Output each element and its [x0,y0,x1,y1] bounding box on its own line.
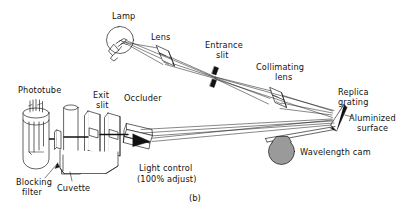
label-lens: Lens [151,33,171,43]
label-aluminized-surface-line2: surface [357,124,388,134]
label-exit-slit-line2: slit [96,101,109,111]
label-entrance-slit-line2: slit [216,51,229,61]
label-light-control-line1: Light control [139,164,192,174]
label-light-control-line2: (100% adjust) [137,175,197,185]
ray-bundle-slit-to-grating [215,77,334,118]
label-wavelength-cam: Wavelength cam [300,148,371,158]
figure-caption: (b) [189,193,201,203]
light-control-glyph [124,124,153,150]
label-blocking-filter-line2: filter [22,188,42,198]
blocking-filter-glyph [55,130,62,150]
label-collimating-lens-line2: lens [275,73,292,83]
label-phototube: Phototube [18,86,61,96]
label-replica-grating-line2: grating [338,98,369,108]
label-cuvette: Cuvette [57,184,90,194]
collimating-lens-glyph [270,88,287,108]
label-occluder: Occluder [124,94,162,104]
lens-glyph [157,46,175,67]
sample-compartment-base [60,150,118,174]
figure-panel-b: Lamp Lens Entrance slit Collimating lens… [0,0,405,211]
lamp-glyph [107,27,134,62]
label-lamp: Lamp [112,12,135,22]
ray-bundle-grating-to-exit [141,119,334,142]
ray-bundle-lamp-to-slit [126,41,216,79]
phototube-glyph [23,100,49,170]
exit-slit-glyph [85,111,101,155]
